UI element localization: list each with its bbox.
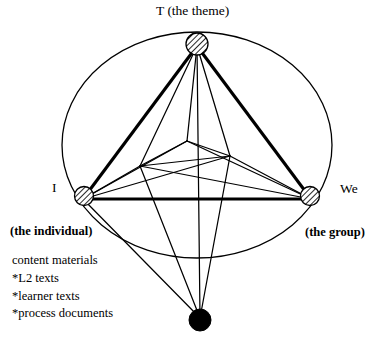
vertex-marker-theme bbox=[186, 33, 208, 55]
edge-theme-individual bbox=[83, 46, 197, 199]
vertex-sublabel-individual: (the individual) bbox=[10, 225, 92, 238]
content-materials-block: content materials *L2 texts *learner tex… bbox=[12, 252, 113, 323]
vertex-marker-individual bbox=[75, 187, 94, 206]
diagram-root: T (the theme) I We (the individual) (the… bbox=[0, 0, 391, 339]
vertex-label-individual: I bbox=[52, 181, 57, 195]
materials-item: *process documents bbox=[12, 305, 113, 323]
edge-theme-group bbox=[197, 46, 311, 199]
vertex-sublabel-group: (the group) bbox=[305, 226, 365, 239]
vertex-marker-group bbox=[301, 187, 320, 206]
materials-item: *L2 texts bbox=[12, 270, 113, 288]
vertex-marker-materials bbox=[189, 309, 211, 331]
inner-network-lines bbox=[83, 46, 311, 318]
materials-item: *learner texts bbox=[12, 288, 113, 306]
vertex-label-theme: T (the theme) bbox=[156, 4, 229, 18]
vertex-label-group: We bbox=[340, 182, 358, 196]
materials-heading: content materials bbox=[12, 252, 113, 270]
